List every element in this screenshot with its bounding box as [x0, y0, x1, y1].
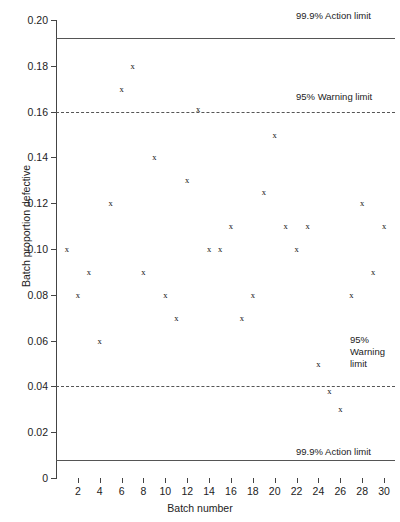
- y-axis-tick: [51, 295, 57, 296]
- data-point-marker: x: [74, 291, 82, 300]
- y-axis-tick: [51, 20, 57, 21]
- data-point-marker: x: [304, 222, 312, 231]
- x-axis-tick-label: 4: [88, 485, 112, 497]
- x-axis-tick-label: 20: [263, 485, 287, 497]
- data-point-marker: x: [205, 245, 213, 254]
- x-axis-tick: [253, 478, 254, 483]
- data-point-marker: x: [216, 245, 224, 254]
- lower-action-limit: [56, 460, 395, 461]
- x-axis-tick-label: 8: [131, 485, 155, 497]
- data-point-marker: x: [63, 245, 71, 254]
- x-axis-tick: [209, 478, 210, 483]
- data-point-marker: x: [107, 199, 115, 208]
- x-axis-tick-label: 30: [372, 485, 396, 497]
- y-axis-tick-label: 0.18: [0, 61, 48, 71]
- data-point-marker: x: [118, 85, 126, 94]
- x-axis-tick: [318, 478, 319, 483]
- x-axis-tick: [275, 478, 276, 483]
- x-axis-tick: [78, 478, 79, 483]
- lower-warning-limit-label-line3: limit: [350, 358, 367, 370]
- data-point-marker: x: [172, 314, 180, 323]
- data-point-marker: x: [271, 131, 279, 140]
- upper-warning-limit-label: 95% Warning limit: [296, 91, 372, 103]
- x-axis-tick: [340, 478, 341, 483]
- x-axis-tick: [100, 478, 101, 483]
- data-point-marker: x: [161, 291, 169, 300]
- y-axis-tick: [51, 249, 57, 250]
- x-axis-title: Batch number: [0, 502, 400, 514]
- data-point-marker: x: [249, 291, 257, 300]
- upper-action-limit: [56, 38, 395, 39]
- data-point-marker: x: [336, 405, 344, 414]
- y-axis-tick-label: 0.04: [0, 381, 48, 391]
- y-axis-tick: [51, 478, 57, 479]
- y-axis-tick: [51, 203, 57, 204]
- x-axis-tick: [143, 478, 144, 483]
- data-point-marker: x: [85, 268, 93, 277]
- data-point-marker: x: [150, 153, 158, 162]
- plot-area: 00.020.040.060.080.100.120.140.160.180.2…: [0, 0, 400, 522]
- x-axis-tick: [384, 478, 385, 483]
- data-point-marker: x: [358, 199, 366, 208]
- data-point-marker: x: [139, 268, 147, 277]
- lower-warning-limit-label-line2: Warning: [350, 346, 385, 358]
- data-point-marker: x: [380, 222, 388, 231]
- x-axis-tick-label: 12: [175, 485, 199, 497]
- x-axis-tick-label: 18: [241, 485, 265, 497]
- y-axis-tick-label: 0: [0, 473, 48, 483]
- y-axis-tick: [51, 66, 57, 67]
- x-axis-tick-label: 10: [153, 485, 177, 497]
- x-axis-tick-label: 22: [285, 485, 309, 497]
- x-axis-tick-label: 6: [110, 485, 134, 497]
- data-point-marker: x: [293, 245, 301, 254]
- lower-action-limit-label: 99.9% Action limit: [296, 446, 371, 458]
- control-chart: 00.020.040.060.080.100.120.140.160.180.2…: [0, 0, 400, 522]
- x-axis-tick-label: 24: [306, 485, 330, 497]
- x-axis-tick: [231, 478, 232, 483]
- x-axis-tick: [187, 478, 188, 483]
- data-point-marker: x: [238, 314, 246, 323]
- data-point-marker: x: [325, 387, 333, 396]
- x-axis-tick-label: 28: [350, 485, 374, 497]
- y-axis-title: Batch proportion defective: [20, 136, 32, 316]
- x-axis-tick: [362, 478, 363, 483]
- lower-warning-limit: [56, 386, 395, 387]
- x-axis-tick-label: 2: [66, 485, 90, 497]
- upper-action-limit-label: 99.9% Action limit: [296, 10, 371, 22]
- y-axis-tick: [51, 341, 57, 342]
- data-point-marker: x: [183, 176, 191, 185]
- data-point-marker: x: [129, 62, 137, 71]
- data-point-marker: x: [96, 337, 104, 346]
- y-axis-tick-label: 0.20: [0, 15, 48, 25]
- y-axis-tick-label: 0.02: [0, 427, 48, 437]
- data-point-marker: x: [227, 222, 235, 231]
- upper-warning-limit: [56, 112, 395, 113]
- data-point-marker: x: [347, 291, 355, 300]
- data-point-marker: x: [282, 222, 290, 231]
- x-axis-tick-label: 26: [328, 485, 352, 497]
- x-axis-tick-label: 16: [219, 485, 243, 497]
- lower-warning-limit-label-line1: 95%: [350, 334, 369, 346]
- data-point-marker: x: [260, 188, 268, 197]
- y-axis-tick: [51, 157, 57, 158]
- data-point-marker: x: [314, 360, 322, 369]
- y-axis-tick-label: 0.16: [0, 107, 48, 117]
- x-axis-tick: [165, 478, 166, 483]
- x-axis-tick: [122, 478, 123, 483]
- data-point-marker: x: [194, 105, 202, 114]
- y-axis-tick: [51, 432, 57, 433]
- y-axis-tick-label: 0.06: [0, 336, 48, 346]
- data-point-marker: x: [369, 268, 377, 277]
- x-axis-tick-label: 14: [197, 485, 221, 497]
- x-axis-tick: [297, 478, 298, 483]
